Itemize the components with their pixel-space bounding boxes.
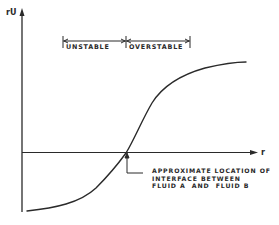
annotation-line-2: INTERFACE BETWEEN [152,175,241,182]
x-axis [22,150,258,155]
annotation-line-3: FLUID A AND FLUID B [152,182,249,189]
interface-annotation: APPROXIMATE LOCATION OF INTERFACE BETWEE… [152,167,271,189]
diagram-canvas: rU r UNSTABLE OVERSTABLE APPROXIMATE LOC… [0,0,279,225]
unstable-range-label: UNSTABLE [66,43,110,51]
annotation-line-1: APPROXIMATE LOCATION OF [152,167,271,174]
x-axis-label: r [261,148,265,157]
x-axis-arrow-icon [250,150,258,155]
y-axis [20,8,25,212]
y-axis-arrow-icon [20,8,25,16]
overstable-range-label: OVERSTABLE [129,43,183,51]
y-axis-label: rU [6,8,16,17]
interface-leader-line [125,153,143,173]
